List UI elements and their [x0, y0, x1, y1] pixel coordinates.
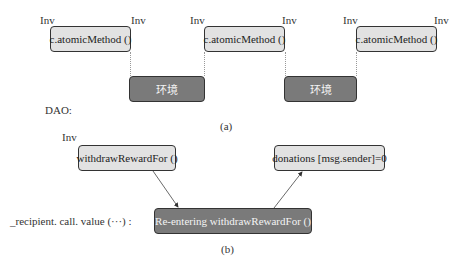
recipient-call-label: _recipient. call. value (···) : [10, 215, 132, 227]
caption-b: (b) [221, 243, 234, 255]
